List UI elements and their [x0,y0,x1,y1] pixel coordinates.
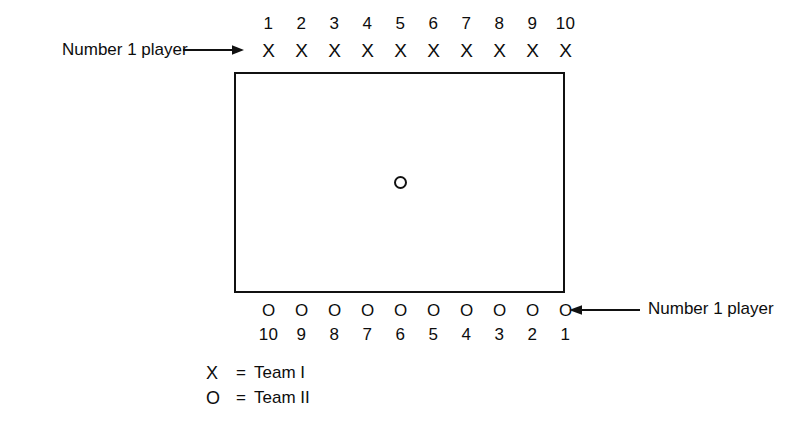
equals-sign: = [228,363,254,383]
right-arrow-icon [183,41,245,59]
team-i-marker: X [549,40,582,61]
bottom-player-number: 6 [384,325,417,345]
bottom-player-number: 4 [450,325,483,345]
bottom-player-number: 9 [285,325,318,345]
team-i-marker: X [318,40,351,61]
top-player-number: 7 [450,14,483,34]
top-player-number: 9 [516,14,549,34]
bottom-player-number: 2 [516,325,549,345]
bottom-callout-label: Number 1 player [648,299,774,319]
top-player-number: 6 [417,14,450,34]
legend-item-team-i: X = Team I [206,360,310,385]
team-i-marker: X [483,40,516,61]
team-i-symbol: X [206,363,228,383]
team-i-label: Team I [254,363,305,383]
top-player-number: 2 [285,14,318,34]
bottom-player-number: 1 [549,325,582,345]
bottom-player-number: 7 [351,325,384,345]
team-i-marker: X [384,40,417,61]
bottom-player-number: 8 [318,325,351,345]
team-i-marker: X [252,40,285,61]
team-i-marker-row: X X X X X X X X X X [252,40,582,61]
team-i-marker: X [417,40,450,61]
bottom-player-number: 10 [252,325,285,345]
team-ii-marker: O [417,300,450,321]
center-ball-icon [394,176,407,189]
legend: X = Team I O = Team II [206,360,310,410]
team-ii-marker: O [450,300,483,321]
left-arrow-icon [568,301,640,319]
team-i-marker: X [285,40,318,61]
team-ii-marker-row: O O O O O O O O O O [252,300,582,321]
team-ii-marker: O [516,300,549,321]
top-player-number: 5 [384,14,417,34]
top-player-number: 8 [483,14,516,34]
team-ii-marker: O [351,300,384,321]
team-ii-marker: O [384,300,417,321]
bottom-player-number: 3 [483,325,516,345]
team-ii-marker: O [483,300,516,321]
top-player-number: 1 [252,14,285,34]
top-player-number: 10 [549,14,582,34]
team-formation-diagram: 1 2 3 4 5 6 7 8 9 10 X X X X X X X X X X… [0,0,798,447]
team-i-marker: X [516,40,549,61]
top-player-number: 4 [351,14,384,34]
team-ii-label: Team II [254,388,310,408]
team-ii-marker: O [285,300,318,321]
top-player-number-row: 1 2 3 4 5 6 7 8 9 10 [252,14,582,34]
top-callout-label: Number 1 player [62,40,188,60]
playing-field [234,72,565,293]
team-i-marker: X [351,40,384,61]
bottom-player-number: 5 [417,325,450,345]
team-ii-marker: O [252,300,285,321]
equals-sign: = [228,388,254,408]
top-player-number: 3 [318,14,351,34]
team-ii-marker: O [318,300,351,321]
team-i-marker: X [450,40,483,61]
bottom-player-number-row: 10 9 8 7 6 5 4 3 2 1 [252,325,582,345]
team-ii-symbol: O [206,388,228,408]
legend-item-team-ii: O = Team II [206,385,310,410]
